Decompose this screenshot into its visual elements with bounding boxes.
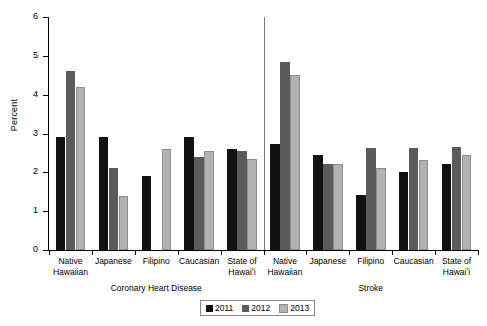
- bar: [237, 151, 247, 250]
- y-tick-label: 0: [16, 245, 38, 254]
- category-label: Filipino: [135, 256, 178, 267]
- y-tick-label: 4: [16, 90, 38, 99]
- bar: [409, 148, 419, 250]
- bar: [247, 159, 257, 250]
- bar: [66, 71, 76, 250]
- bar: [184, 137, 194, 250]
- y-tick-label: 3: [16, 129, 38, 138]
- y-tick-label: 1: [16, 206, 38, 215]
- panel-divider: [264, 17, 265, 250]
- category-label: Filipino: [349, 256, 392, 267]
- bar: [290, 75, 300, 250]
- bar: [442, 164, 452, 250]
- y-tick-label: 6: [16, 12, 38, 21]
- y-tick-label: 5: [16, 51, 38, 60]
- panel-label: Stroke: [264, 283, 479, 293]
- x-tick-mark: [392, 250, 393, 255]
- bar: [162, 149, 172, 250]
- x-tick-mark: [264, 250, 265, 255]
- y-tick-label: 2: [16, 167, 38, 176]
- legend-item: 2011: [206, 303, 233, 313]
- category-label: State of Hawaiʻi: [221, 256, 264, 278]
- category-label: Native Hawaiian: [49, 256, 92, 278]
- bar: [109, 168, 119, 250]
- bar: [313, 155, 323, 250]
- bar: [399, 172, 409, 250]
- bar: [76, 87, 86, 250]
- legend-item: 2013: [279, 303, 309, 313]
- legend-swatch: [242, 305, 249, 312]
- legend-label: 2012: [251, 303, 270, 313]
- x-tick-mark: [349, 250, 350, 255]
- bar: [280, 62, 290, 250]
- bar: [204, 151, 214, 250]
- bar: [452, 147, 462, 250]
- bar: [99, 137, 109, 250]
- bar: [142, 176, 152, 250]
- legend-label: 2011: [215, 303, 233, 313]
- legend-swatch: [206, 305, 213, 312]
- legend: 201120122013: [200, 300, 315, 316]
- bar: [376, 168, 386, 250]
- bar: [227, 149, 237, 250]
- plot-area: [49, 17, 478, 250]
- bar: [270, 144, 280, 250]
- category-label: Native Hawaiian: [264, 256, 307, 278]
- x-tick-mark: [435, 250, 436, 255]
- bar: [356, 195, 366, 250]
- category-label: Japanese: [92, 256, 135, 267]
- category-label: Caucasian: [392, 256, 435, 267]
- bar: [323, 164, 333, 250]
- x-tick-mark: [221, 250, 222, 255]
- category-label: Japanese: [306, 256, 349, 267]
- legend-swatch: [279, 304, 288, 313]
- bar: [419, 160, 429, 250]
- x-tick-mark: [135, 250, 136, 255]
- legend-label: 2013: [290, 303, 309, 313]
- x-tick-mark: [478, 250, 479, 255]
- bar: [194, 157, 204, 250]
- x-tick-mark: [306, 250, 307, 255]
- category-label: State of Hawaiʻi: [435, 256, 478, 278]
- x-tick-mark: [49, 250, 50, 255]
- bar: [366, 148, 376, 250]
- x-tick-mark: [92, 250, 93, 255]
- bar: [333, 164, 343, 250]
- x-tick-mark: [178, 250, 179, 255]
- bar: [119, 196, 129, 250]
- bar-chart-figure: Percent 0123456 Native HawaiianJapaneseF…: [0, 0, 487, 326]
- category-label: Caucasian: [178, 256, 221, 267]
- bar: [462, 155, 472, 250]
- bar: [56, 137, 66, 250]
- panel-label: Coronary Heart Disease: [49, 283, 264, 293]
- legend-item: 2012: [242, 303, 270, 313]
